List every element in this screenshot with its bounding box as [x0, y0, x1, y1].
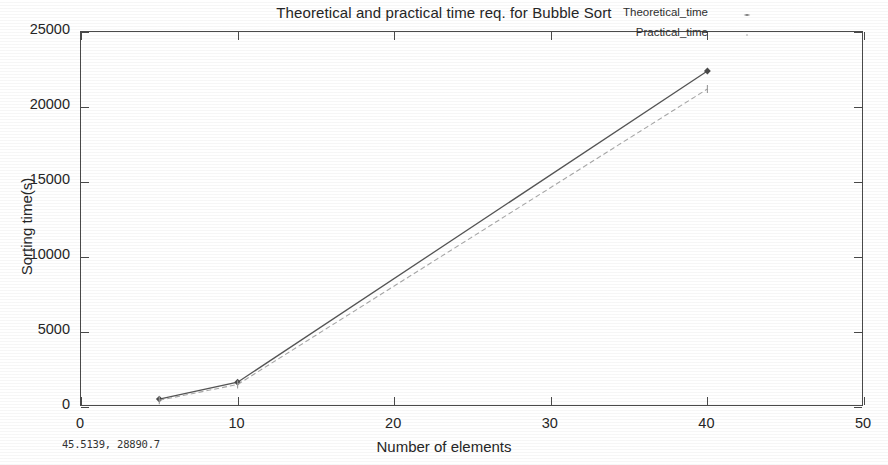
x-tick-mark [81, 32, 82, 40]
y-tick-mark [81, 182, 89, 183]
series-line-practical-time [159, 89, 707, 400]
data-point-marker [704, 68, 711, 75]
x-tick-mark [394, 397, 395, 405]
legend-item-theoretical-time[interactable]: Theoretical_time [612, 6, 780, 26]
y-tick-mark [854, 407, 862, 408]
y-tick-mark [854, 182, 862, 183]
x-tick-mark [864, 397, 865, 405]
x-tick-mark [551, 32, 552, 40]
y-tick-mark [81, 257, 89, 258]
x-tick-label: 50 [823, 415, 888, 431]
data-layer [81, 32, 864, 407]
x-tick-label: 30 [510, 415, 590, 431]
y-tick-mark [81, 32, 89, 33]
x-tick-mark [864, 32, 865, 40]
chart-figure: Theoretical and practical time req. for … [0, 0, 888, 465]
y-tick-mark [854, 257, 862, 258]
x-tick-mark [238, 397, 239, 405]
legend-sample-practical-time [714, 34, 780, 36]
x-tick-mark [238, 32, 239, 40]
legend-sample-theoretical-time [714, 14, 780, 16]
y-tick-mark [854, 332, 862, 333]
series-line-theoretical-time [159, 71, 707, 399]
y-tick-label: 10000 [0, 246, 70, 262]
chart-legend: Theoretical_time Practical_time [612, 6, 780, 52]
y-tick-mark [854, 107, 862, 108]
x-tick-label: 0 [40, 415, 120, 431]
plot-area [80, 31, 863, 406]
x-tick-mark [551, 397, 552, 405]
x-tick-label: 10 [197, 415, 277, 431]
coordinate-readout: 45.5139, 28890.7 [62, 438, 160, 450]
y-tick-label: 5000 [0, 321, 70, 337]
y-tick-mark [81, 107, 89, 108]
x-tick-mark [394, 32, 395, 40]
legend-label-theoretical-time: Theoretical_time [623, 6, 708, 18]
y-tick-mark [81, 407, 89, 408]
y-tick-label: 20000 [0, 96, 70, 112]
legend-label-practical-time: Practical_time [636, 26, 708, 38]
x-tick-mark [707, 397, 708, 405]
y-tick-label: 15000 [0, 171, 70, 187]
y-tick-label: 25000 [0, 21, 70, 37]
y-tick-mark [854, 32, 862, 33]
x-tick-label: 20 [353, 415, 433, 431]
y-tick-label: 0 [0, 396, 70, 412]
x-tick-mark [81, 397, 82, 405]
y-tick-mark [81, 332, 89, 333]
y-axis-label: Sorting time(s) [18, 157, 35, 297]
legend-item-practical-time[interactable]: Practical_time [612, 26, 780, 46]
x-tick-label: 40 [666, 415, 746, 431]
